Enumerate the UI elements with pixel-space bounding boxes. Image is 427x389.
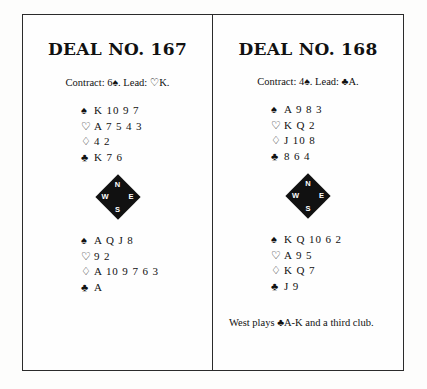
north-hearts-row-168: ♡ K Q 2 bbox=[271, 118, 315, 134]
heart-icon: ♡ bbox=[81, 249, 94, 265]
north-spades-cards-167: K 10 9 7 bbox=[94, 103, 139, 119]
compass-south-label: S bbox=[305, 205, 310, 213]
north-diamonds-row-168: ♢ J 10 8 bbox=[271, 133, 316, 149]
south-clubs-row-168: ♣ J 9 bbox=[271, 279, 299, 295]
north-diamonds-cards-167: 4 2 bbox=[94, 134, 110, 150]
club-icon: ♣ bbox=[271, 279, 284, 295]
spade-icon: ♠ bbox=[271, 232, 284, 248]
north-spades-row-167: ♠ K 10 9 7 bbox=[81, 103, 139, 119]
north-diamonds-row-167: ♢ 4 2 bbox=[81, 134, 110, 150]
compass-east-label: E bbox=[128, 193, 133, 201]
compass-west-label: W bbox=[292, 192, 299, 200]
compass-south-label: S bbox=[115, 206, 120, 214]
north-clubs-row-168: ♣ 8 6 4 bbox=[271, 149, 311, 165]
north-hand-168: ♠ A 9 8 3 ♡ K Q 2 ♢ J 10 8 ♣ 8 6 4 bbox=[213, 102, 403, 164]
heart-icon: ♡ bbox=[271, 118, 284, 134]
north-spades-cards-168: A 9 8 3 bbox=[284, 102, 322, 118]
south-hearts-row-168: ♡ A 9 5 bbox=[271, 248, 312, 264]
north-clubs-cards-167: K 7 6 bbox=[94, 150, 123, 166]
south-clubs-row-167: ♣ A bbox=[81, 280, 103, 296]
south-hearts-cards-168: A 9 5 bbox=[284, 248, 312, 264]
north-hearts-cards-168: K Q 2 bbox=[284, 118, 315, 134]
south-diamonds-cards-168: K Q 7 bbox=[284, 263, 315, 279]
south-clubs-cards-167: A bbox=[94, 280, 103, 296]
south-hand-168: ♠ K Q 10 6 2 ♡ A 9 5 ♢ K Q 7 ♣ J 9 bbox=[213, 232, 403, 294]
compass-north-label: N bbox=[115, 181, 120, 189]
south-spades-cards-167: A Q J 8 bbox=[94, 233, 134, 249]
south-hearts-cards-167: 9 2 bbox=[94, 249, 110, 265]
compass-rose-167: N W E S bbox=[95, 174, 141, 220]
spade-icon: ♠ bbox=[81, 233, 94, 249]
diamond-icon: ♢ bbox=[271, 263, 284, 279]
compass-wrap-167: N W E S bbox=[23, 174, 212, 220]
south-spades-row-167: ♠ A Q J 8 bbox=[81, 233, 134, 249]
north-spades-row-168: ♠ A 9 8 3 bbox=[271, 102, 322, 118]
heart-icon: ♡ bbox=[271, 248, 284, 264]
north-diamonds-cards-168: J 10 8 bbox=[284, 133, 316, 149]
north-hand-167: ♠ K 10 9 7 ♡ A 7 5 4 3 ♢ 4 2 ♣ K 7 6 bbox=[23, 103, 212, 165]
north-clubs-row-167: ♣ K 7 6 bbox=[81, 150, 123, 166]
diamond-icon: ♢ bbox=[81, 264, 94, 280]
north-hearts-row-167: ♡ A 7 5 4 3 bbox=[81, 119, 142, 135]
heart-icon: ♡ bbox=[81, 119, 94, 135]
diamond-icon: ♢ bbox=[81, 134, 94, 150]
north-clubs-cards-168: 8 6 4 bbox=[284, 149, 311, 165]
contract-line-167: Contract: 6♠. Lead: ♡K. bbox=[23, 76, 212, 88]
compass-west-label: W bbox=[102, 193, 109, 201]
south-hearts-row-167: ♡ 9 2 bbox=[81, 249, 110, 265]
compass-north-label: N bbox=[305, 180, 310, 188]
south-hand-167: ♠ A Q J 8 ♡ 9 2 ♢ A 10 9 7 6 3 ♣ A bbox=[23, 233, 212, 295]
club-icon: ♣ bbox=[81, 280, 94, 296]
south-spades-row-168: ♠ K Q 10 6 2 bbox=[271, 232, 342, 248]
diamond-icon: ♢ bbox=[271, 133, 284, 149]
deal-title-168: DEAL NO. 168 bbox=[213, 39, 403, 59]
south-spades-cards-168: K Q 10 6 2 bbox=[284, 232, 342, 248]
spade-icon: ♠ bbox=[271, 102, 284, 118]
compass-east-label: E bbox=[319, 192, 324, 200]
spade-icon: ♠ bbox=[81, 103, 94, 119]
club-icon: ♣ bbox=[81, 150, 94, 166]
south-diamonds-row-168: ♢ K Q 7 bbox=[271, 263, 315, 279]
club-icon: ♣ bbox=[271, 149, 284, 165]
north-hearts-cards-167: A 7 5 4 3 bbox=[94, 119, 142, 135]
deal-panel-168: DEAL NO. 168 Contract: 4♠. Lead: ♣A. ♠ A… bbox=[213, 15, 403, 370]
deal-page-frame: DEAL NO. 167 Contract: 6♠. Lead: ♡K. ♠ K… bbox=[22, 14, 404, 371]
deal-panel-167: DEAL NO. 167 Contract: 6♠. Lead: ♡K. ♠ K… bbox=[23, 15, 213, 370]
compass-wrap-168: N W E S bbox=[213, 173, 403, 219]
south-clubs-cards-168: J 9 bbox=[284, 279, 299, 295]
contract-line-168: Contract: 4♠. Lead: ♣A. bbox=[213, 76, 403, 87]
south-diamonds-row-167: ♢ A 10 9 7 6 3 bbox=[81, 264, 159, 280]
deal-title-167: DEAL NO. 167 bbox=[23, 39, 212, 59]
compass-rose-168: N W E S bbox=[285, 173, 331, 219]
deal-note-168: West plays ♣A-K and a third club. bbox=[229, 315, 389, 330]
south-diamonds-cards-167: A 10 9 7 6 3 bbox=[94, 264, 159, 280]
